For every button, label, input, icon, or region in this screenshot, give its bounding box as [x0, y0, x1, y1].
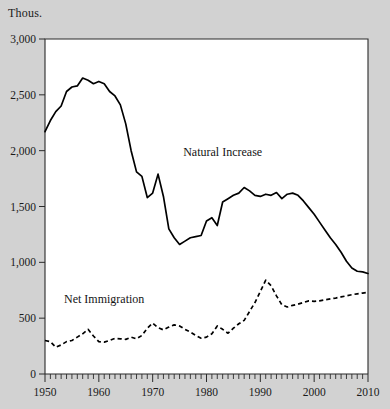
x-tick-label: 1970 — [141, 386, 164, 398]
x-tick-label: 2010 — [357, 386, 380, 398]
y-tick-label: 0 — [30, 368, 36, 380]
figure-container: Thous. 05001,0001,5002,0002,5003,000 195… — [0, 0, 390, 409]
y-tick-label: 1,500 — [10, 201, 36, 214]
y-tick-label: 2,500 — [10, 89, 36, 102]
y-tick-label: 500 — [19, 312, 37, 324]
plot-background — [45, 39, 368, 374]
x-tick-label: 1960 — [87, 386, 110, 398]
y-axis-tick-marks — [39, 39, 45, 374]
x-axis-tick-labels: 1950196019701980199020002010 — [34, 386, 380, 398]
y-tick-label: 2,000 — [10, 145, 36, 158]
series-annotation: Natural Increase — [183, 145, 262, 159]
series-annotation: Net Immigration — [64, 292, 144, 306]
chart-canvas: 05001,0001,5002,0002,5003,000 1950196019… — [0, 0, 390, 409]
x-tick-label: 2000 — [303, 386, 326, 398]
x-tick-label: 1950 — [34, 386, 57, 398]
y-tick-label: 3,000 — [10, 33, 36, 46]
y-axis-tick-labels: 05001,0001,5002,0002,5003,000 — [10, 33, 36, 380]
x-tick-label: 1990 — [249, 386, 272, 398]
x-tick-label: 1980 — [195, 386, 218, 398]
y-tick-label: 1,000 — [10, 256, 36, 269]
